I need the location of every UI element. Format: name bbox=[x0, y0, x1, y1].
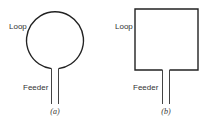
circular-loop bbox=[27, 12, 84, 69]
panel-b: Loop Feeder (b) bbox=[115, 9, 198, 116]
loop-antenna-diagram: Loop Feeder (a) Loop Feeder (b) bbox=[0, 0, 206, 127]
loop-label: Loop bbox=[9, 22, 27, 31]
feeder-label: Feeder bbox=[23, 83, 49, 92]
panel-a: Loop Feeder (a) bbox=[9, 12, 84, 116]
caption-b: (b) bbox=[161, 107, 171, 116]
loop-label: Loop bbox=[115, 22, 133, 31]
feeder-label: Feeder bbox=[133, 83, 159, 92]
square-loop bbox=[135, 9, 198, 70]
caption-a: (a) bbox=[50, 107, 60, 116]
